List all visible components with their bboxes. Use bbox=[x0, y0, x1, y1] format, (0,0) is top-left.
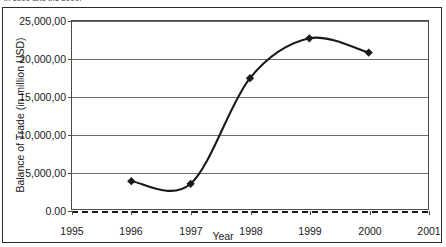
x-tick-1998 bbox=[251, 211, 252, 215]
x-tick-1995 bbox=[72, 211, 73, 215]
cut-off-caption: in 1999 and the 2000. bbox=[4, 0, 184, 6]
y-tick-label-10000: 10,000,00 bbox=[19, 129, 66, 141]
plot-area: 25,000,00 20,000,00 15,000,00 10,000,00 … bbox=[71, 20, 429, 210]
zero-baseline bbox=[72, 211, 428, 213]
data-point-1999 bbox=[305, 34, 313, 42]
y-axis-title: Balance of Trade (in million USD) bbox=[13, 20, 27, 210]
y-tick-label-5000: 5,000,00 bbox=[25, 167, 66, 179]
chart-figure: in 1999 and the 2000. Balance of Trade (… bbox=[0, 0, 446, 247]
x-tick-2001 bbox=[429, 211, 430, 215]
chart-frame: Balance of Trade (in million USD) 25,000… bbox=[2, 7, 442, 243]
data-point-1996 bbox=[127, 177, 135, 185]
x-tick-2000 bbox=[370, 211, 371, 215]
x-axis-title: Year bbox=[3, 230, 443, 242]
cut-off-caption-text: in 1999 and the 2000. bbox=[4, 0, 184, 3]
data-point-2000 bbox=[364, 48, 372, 56]
x-tick-1997 bbox=[191, 211, 192, 215]
series-markers bbox=[127, 34, 373, 188]
x-tick-1996 bbox=[131, 211, 132, 215]
y-tick-label-15000: 15,000,00 bbox=[19, 91, 66, 103]
y-tick-label-0: 0.00 bbox=[46, 205, 66, 217]
x-tick-1999 bbox=[310, 211, 311, 215]
y-tick-label-25000: 25,000,00 bbox=[19, 15, 66, 27]
y-tick-label-20000: 20,000,00 bbox=[19, 53, 66, 65]
data-series-layer bbox=[72, 21, 428, 209]
x-axis-title-text: Year bbox=[212, 230, 233, 242]
series-line-balance-of-trade bbox=[131, 38, 368, 191]
